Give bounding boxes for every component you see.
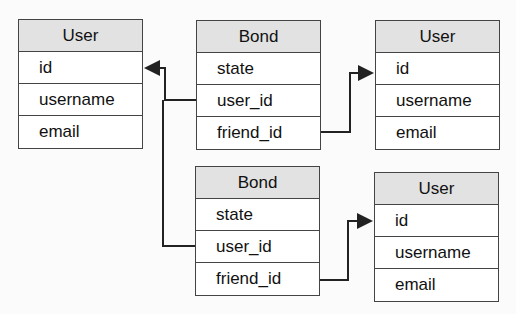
field-id: id	[19, 52, 142, 84]
field-friend-id: friend_id	[197, 117, 320, 149]
user-table-left[interactable]: User id username email	[18, 19, 143, 149]
field-user-id: user_id	[197, 85, 320, 117]
field-username: username	[376, 85, 499, 117]
field-email: email	[376, 117, 499, 149]
field-state: state	[197, 53, 320, 85]
user-table-bottom-right[interactable]: User id username email	[374, 172, 499, 302]
field-id: id	[375, 205, 498, 237]
field-email: email	[375, 269, 498, 301]
table-title: Bond	[196, 167, 319, 199]
table-title: Bond	[197, 21, 320, 53]
bond-table-bottom[interactable]: Bond state user_id friend_id	[195, 166, 320, 296]
field-username: username	[19, 84, 142, 116]
table-title: User	[19, 20, 142, 52]
arrow-bond2-friend-to-user3	[319, 221, 371, 280]
field-email: email	[19, 116, 142, 148]
bond-table-top[interactable]: Bond state user_id friend_id	[196, 20, 321, 150]
arrow-bond1-user-to-user1	[146, 68, 196, 100]
arrow-bond1-friend-to-user2	[320, 73, 372, 132]
table-title: User	[375, 173, 498, 205]
field-username: username	[375, 237, 498, 269]
field-friend-id: friend_id	[196, 263, 319, 295]
table-title: User	[376, 21, 499, 53]
field-id: id	[376, 53, 499, 85]
field-user-id: user_id	[196, 231, 319, 263]
field-state: state	[196, 199, 319, 231]
user-table-top-right[interactable]: User id username email	[375, 20, 500, 150]
arrow-bond2-user-to-user1	[163, 100, 195, 246]
